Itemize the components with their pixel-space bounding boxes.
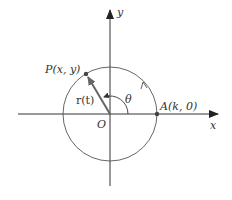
point-p [84,72,88,76]
y-axis-label: y [116,6,124,19]
polar-circle-diagram: y x O P(x, y) A(k, 0) r(t) θ [0,0,232,200]
point-a [155,112,159,116]
vector-r-label: r(t) [76,94,94,107]
point-p-label: P(x, y) [44,63,80,76]
origin-label: O [97,118,106,131]
point-a-label: A(k, 0) [159,100,197,113]
direction-arrow-icon [141,82,147,89]
angle-theta-label: θ [125,93,132,106]
x-axis-label: x [210,119,217,132]
